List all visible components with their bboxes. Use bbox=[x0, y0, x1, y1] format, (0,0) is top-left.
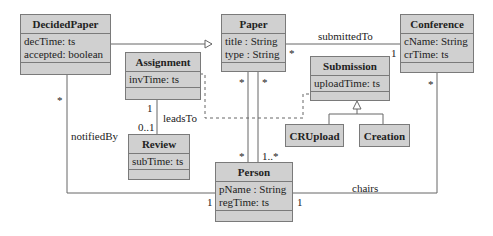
class-paper[interactable]: Paper title : String type : String bbox=[221, 14, 286, 72]
class-name: Creation bbox=[364, 127, 405, 145]
class-operations bbox=[21, 63, 110, 70]
attribute: invTime: ts bbox=[129, 73, 197, 86]
class-assignment[interactable]: Assignment invTime: ts bbox=[125, 52, 201, 100]
class-cr-upload[interactable]: CRUpload bbox=[285, 124, 344, 147]
class-name: Person bbox=[216, 163, 292, 182]
mult-conference-chairs: * bbox=[428, 78, 434, 90]
mult-person-chairs: 1 bbox=[297, 196, 303, 208]
attribute: title : String bbox=[225, 35, 282, 48]
mult-paper-submitted: * bbox=[289, 47, 295, 59]
mult-paper-person-b-top: * bbox=[262, 76, 268, 88]
class-attributes: subTime: ts bbox=[129, 154, 189, 170]
attribute: accepted: boolean bbox=[24, 48, 107, 61]
attribute: uploadTime: ts bbox=[314, 77, 386, 90]
class-attributes: title : String type : String bbox=[222, 34, 285, 63]
class-operations bbox=[311, 92, 389, 99]
attribute: type : String bbox=[225, 48, 282, 61]
class-operations bbox=[129, 170, 189, 177]
mult-review-leads: 0..1 bbox=[138, 121, 155, 133]
attribute: pName : String bbox=[219, 183, 289, 196]
class-name: Submission bbox=[311, 57, 389, 76]
mult-paper-person-a-top: * bbox=[239, 76, 245, 88]
mult-conference-submitted: 1 bbox=[391, 47, 397, 59]
class-person[interactable]: Person pName : String regTime: ts bbox=[215, 162, 293, 222]
label-chairs: chairs bbox=[352, 182, 378, 194]
label-submitted-to: submittedTo bbox=[318, 30, 373, 42]
class-operations bbox=[126, 88, 200, 95]
attribute: cName: String bbox=[404, 35, 470, 48]
attribute: regTime: ts bbox=[219, 196, 289, 209]
attribute: subTime: ts bbox=[132, 155, 186, 168]
class-decided-paper[interactable]: DecidedPaper decTime: ts accepted: boole… bbox=[20, 14, 111, 75]
class-conference[interactable]: Conference cName: String crTime: ts bbox=[400, 14, 474, 73]
class-operations bbox=[216, 211, 292, 218]
label-notified-by: notifiedBy bbox=[71, 130, 118, 142]
class-attributes: decTime: ts accepted: boolean bbox=[21, 34, 110, 63]
mult-decided-notified: * bbox=[57, 94, 63, 106]
class-creation[interactable]: Creation bbox=[359, 124, 410, 147]
class-review[interactable]: Review subTime: ts bbox=[128, 134, 190, 180]
class-name: Assignment bbox=[126, 53, 200, 72]
class-attributes: uploadTime: ts bbox=[311, 76, 389, 92]
class-name: Paper bbox=[222, 15, 285, 34]
class-attributes: pName : String regTime: ts bbox=[216, 182, 292, 211]
mult-person-notified: 1 bbox=[207, 196, 213, 208]
class-name: Review bbox=[129, 135, 189, 154]
class-name: Conference bbox=[401, 15, 473, 34]
class-name: CRUpload bbox=[289, 127, 339, 145]
class-submission[interactable]: Submission uploadTime: ts bbox=[310, 56, 390, 101]
attribute: decTime: ts bbox=[24, 35, 107, 48]
class-attributes: invTime: ts bbox=[126, 72, 200, 88]
class-operations bbox=[222, 63, 285, 70]
label-leads-to: leadsTo bbox=[163, 112, 197, 124]
class-operations bbox=[401, 63, 473, 70]
mult-paper-person-a-bottom: * bbox=[239, 150, 245, 162]
attribute: crTime: ts bbox=[404, 48, 470, 61]
mult-paper-person-b-bottom: 1..* bbox=[262, 150, 279, 162]
class-attributes: cName: String crTime: ts bbox=[401, 34, 473, 63]
mult-assignment-leads: 1 bbox=[147, 102, 153, 114]
class-name: DecidedPaper bbox=[21, 15, 110, 34]
